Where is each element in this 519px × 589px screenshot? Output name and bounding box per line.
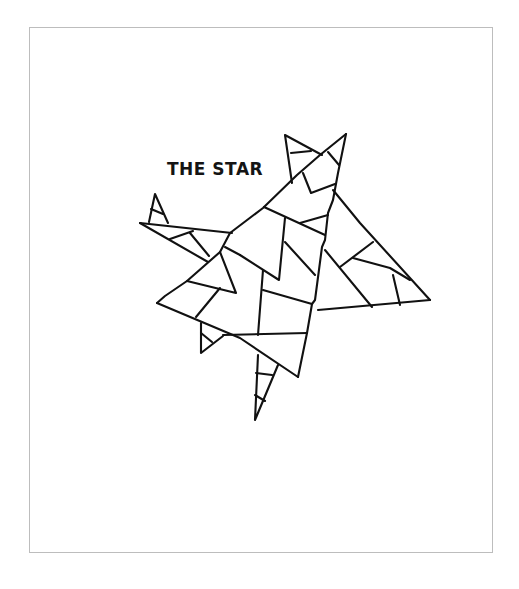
inner-line-b xyxy=(285,242,315,275)
long-diagonal xyxy=(298,134,346,377)
tip-inner-line xyxy=(328,152,339,165)
right-stripe-3 xyxy=(393,275,400,305)
inner-line-lower-left xyxy=(196,288,220,317)
lower-horizontal xyxy=(223,333,307,335)
bottom-left-spike-crossbar xyxy=(201,333,212,342)
top-spike-crossbar xyxy=(291,151,311,153)
right-triangle-bottom-edge xyxy=(318,300,430,310)
inner-crossbar xyxy=(300,215,328,223)
right-stripe-1 xyxy=(340,242,373,267)
right-triangle-outer-edge xyxy=(333,190,430,300)
lower-vertical xyxy=(258,270,263,335)
right-stripe-4 xyxy=(325,250,372,307)
star-drawing-icon xyxy=(0,0,519,589)
lower-line xyxy=(263,290,312,304)
top-zigzag xyxy=(303,173,335,193)
bottom-spike-crossbar-1 xyxy=(256,373,272,375)
bottom-spike xyxy=(255,355,278,420)
bottom-left-spike xyxy=(201,323,223,353)
inner-line-c xyxy=(225,247,240,255)
inner-line-a xyxy=(264,207,325,235)
